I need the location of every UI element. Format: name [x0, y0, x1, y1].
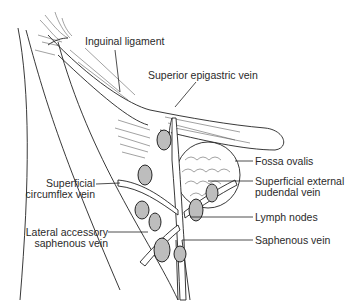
lymph-node — [135, 201, 149, 219]
leader-circumflex — [96, 183, 120, 184]
lymph-node — [149, 213, 161, 231]
label-superior-epigastric-vein: Superior epigastric vein — [148, 70, 258, 81]
leader-superior-epigastric — [175, 82, 196, 107]
lymph-node — [157, 130, 171, 150]
label-line: pudendal vein — [255, 187, 344, 198]
label-line: saphenous vein — [10, 238, 108, 249]
anatomical-diagram: Inguinal ligament Superior epigastric ve… — [0, 0, 362, 305]
ligament-striations — [70, 48, 135, 100]
lymph-node — [154, 238, 170, 262]
lymph-node — [138, 165, 152, 185]
muscle-striations — [115, 120, 150, 158]
diagram-drawing — [0, 0, 362, 305]
label-inguinal-ligament: Inguinal ligament — [85, 36, 164, 47]
fiber-tuft — [35, 12, 72, 55]
inguinal-ligament-lower — [58, 55, 148, 125]
lymph-node — [206, 184, 218, 202]
label-line: circumflex vein — [18, 189, 95, 200]
lymph-node — [189, 199, 203, 221]
thigh-outline-left — [18, 28, 27, 300]
label-lymph-nodes: Lymph nodes — [255, 212, 318, 223]
leader-inguinal-ligament — [115, 50, 120, 92]
label-saphenous-vein: Saphenous vein — [255, 235, 330, 246]
label-superficial-circumflex-vein: Superficial circumflex vein — [18, 178, 95, 200]
label-lateral-accessory-saphenous-vein: Lateral accessory saphenous vein — [10, 227, 108, 249]
label-superficial-external-pudendal-vein: Superficial external pudendal vein — [255, 176, 344, 198]
label-fossa-ovalis: Fossa ovalis — [255, 156, 313, 167]
lymph-node — [174, 246, 186, 262]
